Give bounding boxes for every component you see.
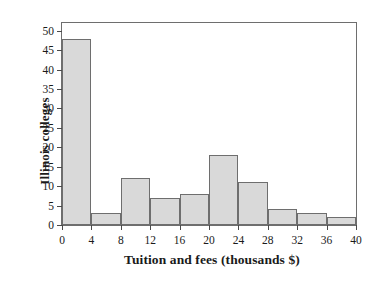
x-axis-tick-label: 28: [262, 234, 274, 246]
x-axis-tick: [180, 225, 181, 230]
plot-area: 051015202530354045500481216202428323640: [61, 22, 357, 226]
x-axis-tick: [62, 225, 63, 230]
x-axis-tick-label: 8: [118, 234, 124, 246]
y-axis-tick-label: 25: [43, 122, 55, 134]
histogram-bar: [327, 217, 356, 225]
histogram-bar: [91, 213, 120, 225]
y-axis-tick-label: 40: [43, 64, 55, 76]
histogram-bar: [238, 182, 267, 225]
y-axis-tick-label: 35: [43, 83, 55, 95]
y-axis-tick-label: 0: [48, 219, 54, 231]
y-axis-tick: [57, 167, 62, 168]
y-axis-tick: [57, 186, 62, 187]
x-axis-tick-label: 20: [203, 234, 215, 246]
x-axis-tick-label: 24: [233, 234, 245, 246]
y-axis-tick-label: 50: [43, 25, 55, 37]
x-axis-tick: [91, 225, 92, 230]
y-axis-tick-label: 45: [43, 44, 55, 56]
histogram-bar: [121, 178, 150, 225]
x-axis-tick: [209, 225, 210, 230]
x-axis-tick: [121, 225, 122, 230]
y-axis-tick-label: 5: [48, 200, 54, 212]
histogram-bar: [268, 209, 297, 225]
y-axis-tick-label: 30: [43, 102, 55, 114]
histogram-bar: [150, 198, 179, 225]
y-axis-tick: [57, 206, 62, 207]
y-axis-tick-label: 10: [43, 180, 55, 192]
x-axis-tick: [356, 225, 357, 230]
histogram-figure: Illinois colleges 0510152025303540455004…: [0, 0, 384, 282]
x-axis-tick-label: 4: [89, 234, 95, 246]
histogram-bar: [297, 213, 326, 225]
bar-series: [62, 23, 356, 225]
histogram-bar: [180, 194, 209, 225]
x-axis-tick-label: 40: [350, 234, 362, 246]
y-axis-tick: [57, 108, 62, 109]
y-axis-tick: [57, 89, 62, 90]
histogram-bar: [62, 39, 91, 225]
y-axis-tick: [57, 31, 62, 32]
y-axis-tick: [57, 50, 62, 51]
y-axis-tick-label: 20: [43, 141, 55, 153]
x-axis-tick-label: 0: [59, 234, 65, 246]
y-axis-tick-label: 15: [43, 161, 55, 173]
x-axis-tick-label: 12: [144, 234, 156, 246]
x-axis-tick: [327, 225, 328, 230]
x-axis-tick: [297, 225, 298, 230]
y-axis-tick: [57, 147, 62, 148]
x-axis-tick-label: 36: [321, 234, 333, 246]
x-axis-tick-label: 32: [291, 234, 303, 246]
x-axis-title: Tuition and fees (thousands $): [56, 252, 368, 268]
y-axis-tick: [57, 70, 62, 71]
y-axis-tick: [57, 128, 62, 129]
histogram-bar: [209, 155, 238, 225]
x-axis-tick: [150, 225, 151, 230]
x-axis-tick-label: 16: [174, 234, 186, 246]
x-axis-tick: [238, 225, 239, 230]
x-axis-tick: [268, 225, 269, 230]
